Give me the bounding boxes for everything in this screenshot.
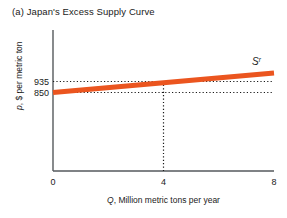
chart-figure: (a) Japan's Excess Supply Curve Sr 935 8… bbox=[0, 0, 287, 218]
x-tick-label-8: 8 bbox=[271, 177, 276, 187]
x-axis-title: Q, Million metric tons per year bbox=[107, 195, 220, 205]
x-tick-label-4: 4 bbox=[161, 177, 166, 187]
y-tick-label-935: 935 bbox=[34, 77, 49, 87]
x-tick-label-0: 0 bbox=[50, 177, 55, 187]
y-tick-label-850: 850 bbox=[34, 88, 49, 98]
x-axis-title-units: , Million metric tons per year bbox=[114, 195, 220, 205]
supply-curve-label: Sr bbox=[252, 56, 262, 68]
supply-curve-sr bbox=[53, 73, 274, 93]
excess-supply-chart: Sr 935 850 0 4 8 p, $ per metric ton Q, … bbox=[0, 0, 287, 218]
supply-curve-label-superscript: r bbox=[259, 56, 262, 63]
y-axis-title-units: , $ per metric ton bbox=[14, 41, 24, 105]
y-axis-title: p, $ per metric ton bbox=[14, 41, 24, 111]
